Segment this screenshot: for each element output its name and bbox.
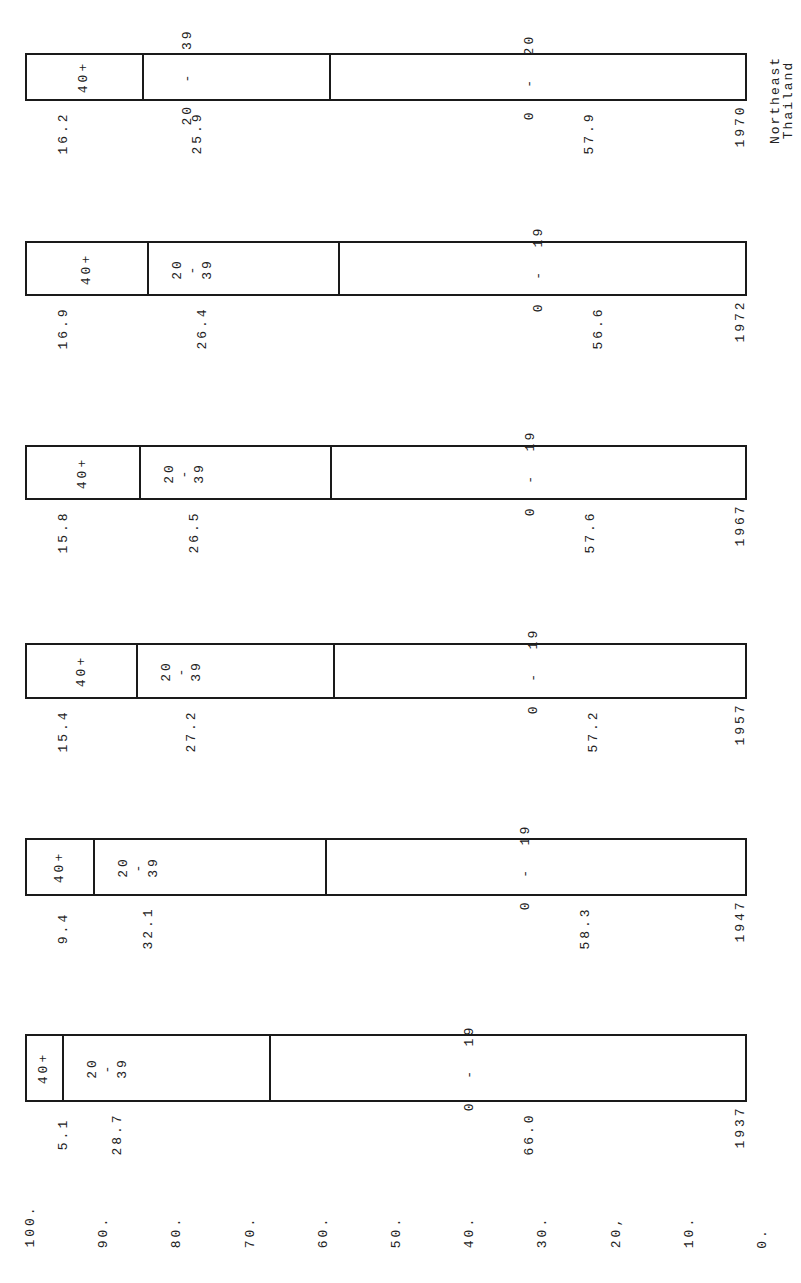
- bar-1970: [25, 53, 747, 101]
- axis-tick: 10.: [681, 1216, 696, 1248]
- value-label: 26.4: [195, 306, 210, 349]
- value-label: 25.9: [189, 111, 204, 154]
- value-label: 66.0: [522, 1112, 537, 1155]
- bar-1937: [25, 1034, 747, 1102]
- segment-0-19: [325, 840, 746, 894]
- axis-tick: 80.: [169, 1216, 184, 1248]
- value-label: 32.1: [140, 906, 155, 949]
- segment-0-19: [269, 1036, 746, 1100]
- segment-label: 40+: [36, 1052, 51, 1084]
- segment-label: 40+: [51, 851, 66, 883]
- year-label: 1970: [733, 104, 748, 147]
- bar-1957: [25, 643, 747, 699]
- value-label: 16.9: [56, 306, 71, 349]
- value-label: 9.4: [56, 912, 71, 944]
- axis-tick: 20,: [608, 1216, 623, 1248]
- axis-tick: 30.: [535, 1216, 550, 1248]
- segment-label: 20 - 39: [162, 462, 207, 484]
- segment-label: 0 - 19: [462, 1025, 477, 1111]
- axis-tick: 50.: [389, 1216, 404, 1248]
- segment-label: 20 - 39: [170, 258, 215, 280]
- value-label: 5.1: [56, 1118, 71, 1150]
- segment-label: 40+: [73, 655, 88, 687]
- axis-tick: 0.: [755, 1227, 770, 1249]
- value-label: 16.2: [56, 111, 71, 154]
- segment-label: 20 - 39: [84, 1057, 129, 1079]
- bar-1972: [25, 241, 747, 296]
- segment-20-39: [142, 55, 329, 99]
- segment-label: 40+: [75, 456, 90, 488]
- segment-label: 0 - 19: [530, 225, 545, 311]
- segment-label: 0 - 19: [517, 824, 532, 910]
- axis-tick: 100.: [23, 1204, 38, 1247]
- axis-tick: 70.: [242, 1216, 257, 1248]
- axis-tick: 90.: [96, 1216, 111, 1248]
- segment-label: 40+: [79, 252, 94, 284]
- axis-tick: 40.: [462, 1216, 477, 1248]
- value-label: 56.6: [590, 306, 605, 349]
- segment-label: 20 - 39: [159, 660, 204, 682]
- value-label: 15.8: [56, 510, 71, 553]
- value-label: 15.4: [56, 709, 71, 752]
- segment-0-19: [329, 55, 747, 99]
- value-label: 28.7: [109, 1112, 124, 1155]
- segment-label: 20 - 39: [115, 856, 160, 878]
- segment-label: 0 - 19: [523, 429, 538, 515]
- segment-label: 0 - 20: [521, 34, 536, 120]
- segment-label: 40+: [76, 61, 91, 93]
- year-label: 1937: [733, 1105, 748, 1148]
- value-label: 27.2: [184, 709, 199, 752]
- year-label: 1972: [733, 299, 748, 342]
- chart-title: Northeast Thailand: [769, 56, 795, 144]
- year-label: 1957: [733, 702, 748, 745]
- bar-1967: [25, 445, 747, 500]
- value-label: 26.5: [187, 510, 202, 553]
- value-label: 58.3: [577, 906, 592, 949]
- value-label: 57.6: [583, 510, 598, 553]
- value-label: 57.2: [585, 709, 600, 752]
- year-label: 1967: [733, 503, 748, 546]
- year-label: 1947: [733, 899, 748, 942]
- segment-label: 0 - 19: [525, 628, 540, 714]
- axis-tick: 60.: [315, 1216, 330, 1248]
- value-label: 57.9: [581, 111, 596, 154]
- segment-0-19: [330, 447, 746, 498]
